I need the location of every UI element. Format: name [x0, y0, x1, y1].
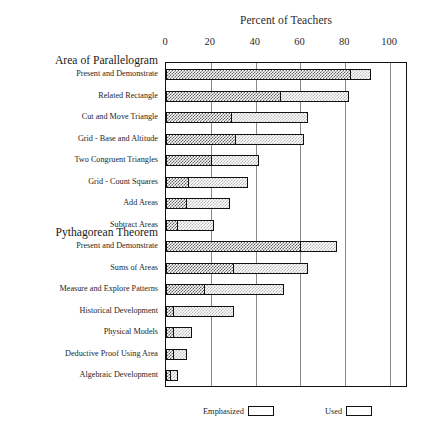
bar-row: [166, 241, 337, 252]
bar-row: [166, 198, 230, 209]
bar-segment-emphasized: [166, 155, 212, 166]
bar-segment-emphasized: [166, 69, 351, 80]
x-tick-label-60: 60: [294, 36, 305, 47]
category-label: Grid - Count Squares: [88, 177, 158, 186]
bar-row: [166, 112, 308, 123]
bars-layer: [166, 63, 406, 386]
legend-label: Used: [325, 407, 342, 416]
plot-area: [165, 62, 407, 387]
bar-row: [166, 155, 259, 166]
bar-segment-used: [235, 134, 303, 145]
bar-segment-used: [173, 306, 235, 317]
legend-label: Emphasized: [203, 407, 244, 416]
bar-segment-used: [177, 220, 214, 231]
bar-row: [166, 370, 178, 381]
x-tick-label-20: 20: [205, 36, 216, 47]
category-label: Cut and Move Triangle: [82, 112, 158, 121]
bar-segment-used: [350, 69, 371, 80]
bar-segment-used: [231, 112, 308, 123]
bar-row: [166, 263, 308, 274]
bar-segment-used: [204, 284, 284, 295]
group-header-0: Area of Parallelogram: [55, 55, 158, 67]
bar-segment-used: [233, 263, 308, 274]
bar-segment-used: [170, 370, 178, 381]
bar-segment-used: [280, 91, 348, 102]
bar-row: [166, 69, 371, 80]
bar-segment-emphasized: [166, 112, 232, 123]
bar-row: [166, 306, 234, 317]
legend-swatch-emphasized: [248, 406, 274, 416]
bar-segment-emphasized: [166, 263, 234, 274]
bar-segment-emphasized: [166, 198, 187, 209]
category-label: Physical Models: [104, 327, 158, 336]
category-label: Measure and Explore Patterns: [60, 284, 158, 293]
bar-row: [166, 284, 284, 295]
bar-segment-used: [188, 177, 247, 188]
x-tick-label-40: 40: [249, 36, 260, 47]
legend-swatch-used: [346, 406, 372, 416]
legend-item-used: Used: [325, 406, 372, 416]
category-label: Sums of Areas: [110, 263, 158, 272]
bar-row: [166, 349, 187, 360]
category-label-column: Area of ParallelogramPresent and Demonst…: [0, 56, 161, 388]
bar-segment-emphasized: [166, 134, 237, 145]
bar-row: [166, 177, 248, 188]
category-label: Grid - Base and Altitude: [78, 134, 158, 143]
category-label: Present and Demonstrate: [76, 241, 158, 250]
bar-segment-used: [173, 349, 188, 360]
category-label: Present and Demonstrate: [76, 69, 158, 78]
bar-segment-used: [186, 198, 230, 209]
bar-row: [166, 220, 214, 231]
category-label: Historical Development: [80, 306, 158, 315]
bar-row: [166, 91, 349, 102]
x-tick-label-100: 100: [381, 36, 397, 47]
category-label: Two Congruent Triangles: [74, 155, 158, 164]
chart-legend: EmphasizedUsed: [165, 406, 407, 424]
x-axis-tick-labels: 020406080100: [0, 36, 427, 52]
bar-segment-used: [173, 327, 192, 338]
legend-item-emphasized: Emphasized: [203, 406, 274, 416]
bar-row: [166, 134, 304, 145]
bar-row: [166, 327, 192, 338]
category-label: Algebraic Development: [80, 370, 158, 379]
category-label: Deductive Proof Using Area: [65, 349, 158, 358]
x-tick-label-0: 0: [162, 36, 167, 47]
bar-segment-used: [300, 241, 337, 252]
category-label: Add Areas: [123, 198, 158, 207]
bar-segment-emphasized: [166, 284, 205, 295]
x-tick-label-80: 80: [339, 36, 350, 47]
bar-segment-used: [211, 155, 259, 166]
bar-segment-emphasized: [166, 241, 302, 252]
category-label: Related Rectangle: [98, 91, 158, 100]
bar-segment-emphasized: [166, 177, 190, 188]
group-header-1: Pythagorean Theorem: [56, 227, 159, 239]
chart-title: Percent of Teachers: [165, 14, 407, 26]
bar-segment-emphasized: [166, 91, 281, 102]
